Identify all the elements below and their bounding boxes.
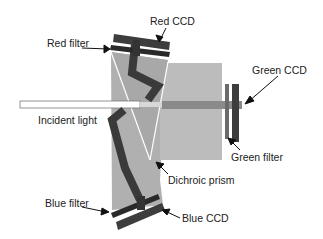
label-incident-light: Incident light bbox=[38, 114, 97, 126]
red-filter-arrowhead bbox=[104, 45, 110, 53]
green-ccd-arrowhead bbox=[245, 96, 254, 104]
green-beam bbox=[162, 101, 242, 109]
blue-ccd-stem bbox=[137, 196, 145, 210]
green-filter bbox=[225, 84, 229, 139]
label-blue-ccd: Blue CCD bbox=[182, 212, 229, 224]
label-red-ccd: Red CCD bbox=[150, 15, 195, 27]
label-blue-filter: Blue filter bbox=[45, 197, 89, 209]
beam-through bbox=[140, 102, 162, 107]
label-dichroic-prism: Dichroic prism bbox=[168, 174, 235, 186]
label-red-filter: Red filter bbox=[47, 37, 90, 49]
blue-ccd-arrowhead bbox=[162, 209, 170, 215]
incident-light-beam bbox=[20, 101, 140, 108]
dichroic-prism-diagram: Red filter Red CCD Green CCD Green filte… bbox=[0, 0, 323, 239]
green-ccd bbox=[232, 84, 239, 142]
prism-right-block bbox=[160, 63, 222, 160]
label-green-filter: Green filter bbox=[231, 151, 283, 163]
green-ccd-arrow bbox=[248, 76, 278, 102]
blue-filter-arrowhead bbox=[101, 208, 109, 215]
label-green-ccd: Green CCD bbox=[252, 64, 307, 76]
red-ccd-stem bbox=[133, 40, 140, 56]
